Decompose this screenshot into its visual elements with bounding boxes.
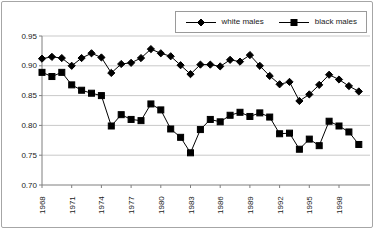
line-chart-plot-area: 0.950.900.850.800.750.701968197119741977…	[2, 2, 374, 229]
data-point-square	[79, 87, 85, 93]
data-point-square	[89, 90, 95, 96]
data-point-diamond	[217, 63, 224, 70]
diamond-line-marker-icon	[185, 18, 217, 27]
data-point-square	[39, 69, 45, 75]
data-point-diamond	[355, 88, 362, 95]
data-point-square	[277, 131, 283, 137]
data-point-square	[128, 116, 134, 122]
data-point-square	[287, 130, 293, 136]
data-point-square	[59, 69, 65, 75]
x-tick-label: 1968	[38, 196, 47, 214]
x-tick-labels: 1968197119741977198019831986198919921995…	[38, 185, 344, 214]
data-point-square	[336, 123, 342, 129]
data-point-square	[326, 118, 332, 124]
data-point-square	[118, 112, 124, 118]
data-point-square	[108, 123, 114, 129]
data-point-diamond	[38, 55, 45, 62]
data-point-square	[178, 134, 184, 140]
data-point-square	[316, 143, 322, 149]
data-point-square	[207, 116, 213, 122]
y-tick-label: 0.90	[21, 61, 37, 70]
data-point-square	[158, 107, 164, 113]
series-black-males	[39, 69, 362, 155]
legend-item-black-males: black males	[278, 18, 357, 27]
axes	[42, 36, 370, 185]
data-point-square	[49, 74, 55, 80]
data-point-diamond	[207, 61, 214, 68]
x-tick-label: 1989	[246, 196, 255, 214]
data-point-diamond	[157, 50, 164, 57]
data-point-square	[197, 127, 203, 133]
data-point-square	[257, 110, 263, 116]
data-point-diamond	[286, 78, 293, 85]
x-tick-label: 1992	[276, 196, 285, 214]
chart-frame: 0.950.900.850.800.750.701968197119741977…	[1, 1, 373, 228]
legend-item-white-males: white males	[185, 18, 264, 27]
chart-legend: white males black males	[175, 11, 368, 33]
data-point-square	[346, 129, 352, 135]
data-point-square	[188, 150, 194, 156]
data-point-diamond	[48, 53, 55, 60]
square-line-marker-icon	[278, 18, 310, 27]
data-point-square	[168, 126, 174, 132]
x-tick-label: 1986	[216, 196, 225, 214]
data-point-square	[217, 119, 223, 125]
data-point-square	[296, 146, 302, 152]
x-tick-label: 1974	[97, 196, 106, 214]
data-point-diamond	[236, 58, 243, 65]
x-tick-label: 1980	[157, 196, 166, 214]
data-point-square	[69, 82, 75, 88]
data-point-square	[267, 114, 273, 120]
x-tick-label: 1983	[187, 196, 196, 214]
data-point-diamond	[335, 76, 342, 83]
y-tick-label: 0.75	[21, 151, 37, 160]
data-point-diamond	[88, 50, 95, 57]
x-tick-label: 1971	[68, 196, 77, 214]
data-point-square	[98, 93, 104, 99]
x-tick-label: 1977	[127, 196, 136, 214]
data-point-diamond	[227, 56, 234, 63]
data-point-square	[148, 101, 154, 107]
y-tick-label: 0.85	[21, 91, 37, 100]
data-point-square	[356, 141, 362, 147]
data-point-square	[237, 109, 243, 115]
data-point-diamond	[98, 54, 105, 61]
y-tick-labels: 0.950.900.850.800.750.70	[21, 32, 42, 190]
y-tick-label: 0.70	[21, 181, 37, 190]
x-tick-label: 1998	[335, 196, 344, 214]
data-point-diamond	[296, 97, 303, 104]
x-tick-label: 1995	[305, 196, 314, 214]
data-point-square	[227, 112, 233, 118]
data-point-diamond	[345, 82, 352, 89]
data-point-square	[247, 113, 253, 119]
data-point-square	[306, 136, 312, 142]
legend-label-black-males: black males	[315, 18, 357, 26]
y-tick-label: 0.80	[21, 121, 37, 130]
legend-label-white-males: white males	[222, 18, 264, 26]
data-point-square	[138, 118, 144, 124]
y-tick-label: 0.95	[21, 32, 37, 41]
